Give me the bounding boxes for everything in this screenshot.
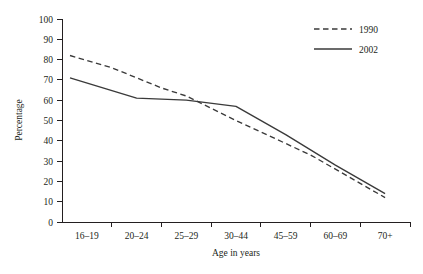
x-tick-label-2: 25–29 — [174, 231, 198, 241]
chart-legend: 1990 2002 — [314, 25, 378, 55]
x-tick-label-5: 60–69 — [324, 231, 348, 241]
legend-label-2002: 2002 — [359, 45, 378, 55]
x-tick-label-1: 20–24 — [125, 231, 149, 241]
x-axis-title: Age in years — [212, 248, 260, 258]
series-line-1990 — [70, 56, 385, 198]
series-line-2002 — [70, 78, 385, 194]
x-tick-label-4: 45–59 — [274, 231, 298, 241]
line-chart-figure: 100 90 80 70 60 50 40 30 20 10 0 16–19 2… — [0, 0, 423, 274]
y-tick-label-100: 100 — [39, 15, 54, 25]
y-tick-label-30: 30 — [44, 157, 54, 167]
y-tick-label-90: 90 — [44, 35, 54, 45]
y-tick-label-0: 0 — [48, 218, 53, 228]
y-axis-title: Percentage — [14, 99, 24, 141]
y-axis-ticks — [57, 19, 62, 222]
x-axis-ticks — [112, 222, 410, 227]
chart-svg: 100 90 80 70 60 50 40 30 20 10 0 16–19 2… — [0, 0, 423, 274]
y-tick-label-50: 50 — [44, 116, 54, 126]
y-tick-label-10: 10 — [44, 197, 54, 207]
x-tick-label-0: 16–19 — [75, 231, 99, 241]
y-tick-label-40: 40 — [44, 136, 54, 146]
y-tick-label-80: 80 — [44, 55, 54, 65]
x-tick-label-6: 70+ — [378, 231, 393, 241]
x-tick-label-3: 30–44 — [224, 231, 248, 241]
y-tick-label-60: 60 — [44, 96, 54, 106]
legend-label-1990: 1990 — [359, 25, 378, 35]
y-tick-label-70: 70 — [44, 75, 54, 85]
y-tick-label-20: 20 — [44, 177, 54, 187]
